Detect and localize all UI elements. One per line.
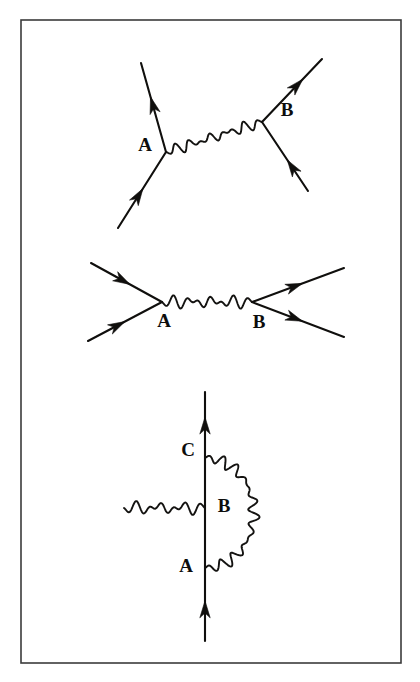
photon-wave-exchange-photon — [166, 120, 262, 153]
arrow-incoming-upper-left — [113, 272, 130, 285]
feynman-figure: AB AB CBA — [0, 0, 420, 682]
arrow-incoming-lower-left — [129, 188, 142, 205]
vertex-label-B: B — [218, 495, 231, 516]
diagram-3-vertex-correction-loop: CBA — [124, 392, 260, 641]
vertex-label-B: B — [253, 311, 266, 332]
vertex-label-B: B — [281, 99, 294, 120]
vertex-label-A: A — [179, 555, 193, 576]
photon-wave-incoming-photon — [124, 501, 205, 515]
arrow-incoming-lower-left — [108, 322, 125, 335]
diagram-1-t-channel-exchange: AB — [118, 59, 322, 228]
fermion-line-incoming-lower-right — [262, 122, 308, 191]
photon-wave-exchange-photon — [162, 295, 252, 308]
vertex-label-C: C — [181, 439, 195, 460]
diagram-2-annihilation-channel: AB — [88, 263, 344, 341]
arrow-incoming-lower-right — [287, 160, 301, 177]
vertex-label-A: A — [138, 134, 152, 155]
vertex-label-A: A — [157, 310, 171, 331]
feynman-diagram-canvas: AB AB CBA — [0, 0, 420, 682]
photon-wave-loop-photon — [205, 456, 260, 571]
